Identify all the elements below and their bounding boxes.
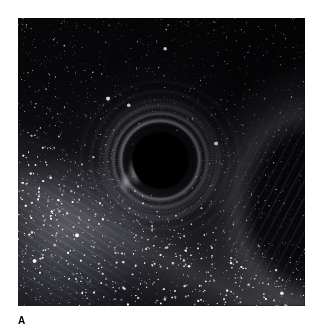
vignette-layer bbox=[18, 18, 305, 306]
panel-label: A bbox=[18, 314, 25, 328]
figure-panel: A bbox=[0, 0, 321, 334]
black-hole-image bbox=[18, 18, 305, 306]
